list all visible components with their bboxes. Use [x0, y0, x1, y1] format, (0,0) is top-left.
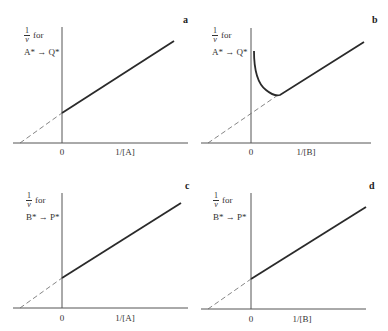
panel-b-y-axis-label: 1 v for A* → Q*: [212, 27, 248, 58]
reaction-label: B* → P*: [213, 212, 247, 223]
panel-a-x-zero: 0: [60, 147, 65, 157]
reaction-label: A* → Q*: [212, 47, 248, 58]
panel-c-x-axis-label: 1/[A]: [115, 313, 135, 323]
panel-b-fraction: 1 v: [212, 27, 218, 44]
label-for: for: [221, 30, 232, 40]
panel-c-fraction: 1 v: [26, 192, 32, 209]
fraction-denominator: v: [26, 201, 32, 209]
panel-d-fraction: 1 v: [213, 192, 219, 209]
panel-d-x-axis-label: 1/[B]: [293, 314, 312, 324]
panel-c-data-line: [62, 203, 181, 278]
panel-b-data-curve: [254, 42, 364, 95]
panel-c-label: c: [185, 180, 189, 191]
fraction-denominator: v: [24, 36, 30, 44]
panel-a-y-axis-label: 1 v for A* → Q*: [24, 27, 60, 58]
reaction-label: A* → Q*: [24, 47, 60, 58]
panel-d-y-axis-label: 1 v for B* → P*: [213, 192, 247, 223]
panel-b-dashed-extrapolation: [208, 95, 278, 143]
panel-d-x-zero: 0: [249, 314, 254, 324]
panel-a-data-line: [62, 41, 174, 113]
panel-c-y-axis-label: 1 v for B* → P*: [26, 192, 60, 223]
label-for: for: [222, 195, 233, 205]
fraction-denominator: v: [212, 36, 218, 44]
label-for: for: [35, 195, 46, 205]
panel-c-dashed-extrapolation: [20, 278, 62, 308]
reaction-label: B* → P*: [26, 212, 60, 223]
panel-d-data-line: [251, 207, 366, 279]
panel-c-x-zero: 0: [60, 313, 65, 323]
label-for: for: [33, 30, 44, 40]
panel-a-x-axis-label: 1/[A]: [115, 147, 135, 157]
panel-a-dashed-extrapolation: [20, 113, 62, 143]
panel-b-x-zero: 0: [249, 147, 254, 157]
panel-b-label: b: [372, 14, 378, 25]
fraction-denominator: v: [213, 201, 219, 209]
panel-a-label: a: [183, 14, 188, 25]
panel-d-dashed-extrapolation: [208, 279, 251, 309]
panel-a-fraction: 1 v: [24, 27, 30, 44]
panel-d-label: d: [369, 180, 375, 191]
panel-b-x-axis-label: 1/[B]: [297, 147, 316, 157]
